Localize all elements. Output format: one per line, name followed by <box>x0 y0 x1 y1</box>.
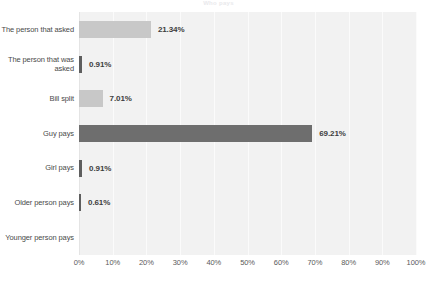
bar-row <box>79 220 416 255</box>
x-tick-label: 40% <box>206 258 221 267</box>
bar-value-label: 21.34% <box>158 25 185 34</box>
category-label: Guy pays <box>0 116 74 151</box>
bar <box>79 125 312 142</box>
bar-value-label: 7.01% <box>110 94 132 103</box>
bar-row: 0.61% <box>79 186 416 221</box>
x-axis-tick-labels: 0%10%20%30%40%50%60%70%80%90%100% <box>79 258 416 272</box>
bar-value-label: 0.61% <box>88 198 110 207</box>
x-tick-label: 100% <box>407 258 426 267</box>
category-label: The person that asked <box>0 12 74 47</box>
bar <box>79 21 151 38</box>
bar-value-label: 0.91% <box>89 164 111 173</box>
bar-row: 21.34% <box>79 12 416 47</box>
x-tick-label: 60% <box>274 258 289 267</box>
x-tick-label: 80% <box>341 258 356 267</box>
category-axis-labels: The person that askedThe person that was… <box>0 12 74 255</box>
x-tick-label: 0% <box>74 258 85 267</box>
x-tick-label: 70% <box>308 258 323 267</box>
bar <box>79 90 103 107</box>
category-label: Older person pays <box>0 186 74 221</box>
chart-title: Who pays <box>0 0 437 6</box>
bar-value-label: 69.21% <box>319 129 346 138</box>
gridline-100% <box>416 12 417 255</box>
x-tick-label: 50% <box>240 258 255 267</box>
x-tick-label: 30% <box>173 258 188 267</box>
category-label: The person that was asked <box>0 47 74 82</box>
bar-row: 69.21% <box>79 116 416 151</box>
bar-row: 0.91% <box>79 47 416 82</box>
category-label: Girl pays <box>0 151 74 186</box>
category-label: Younger person pays <box>0 220 74 255</box>
x-tick-label: 20% <box>139 258 154 267</box>
bar <box>79 160 82 177</box>
plot-area: 21.34%0.91%7.01%69.21%0.91%0.61% <box>79 12 416 255</box>
x-tick-label: 10% <box>105 258 120 267</box>
bar-row: 7.01% <box>79 81 416 116</box>
bar <box>79 56 82 73</box>
bar-rows: 21.34%0.91%7.01%69.21%0.91%0.61% <box>79 12 416 255</box>
bar-row: 0.91% <box>79 151 416 186</box>
x-tick-label: 90% <box>375 258 390 267</box>
category-label: Bill split <box>0 81 74 116</box>
bar <box>79 194 81 211</box>
bar-chart: Who pays 21.34%0.91%7.01%69.21%0.91%0.61… <box>0 0 437 293</box>
bar-value-label: 0.91% <box>89 60 111 69</box>
